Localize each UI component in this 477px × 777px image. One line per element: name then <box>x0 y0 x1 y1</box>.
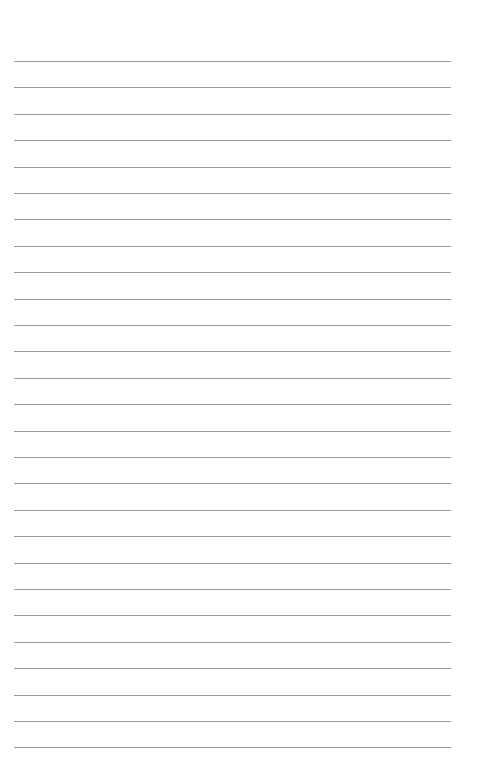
ruled-line <box>14 378 451 379</box>
ruled-line <box>14 140 451 141</box>
ruled-line <box>14 563 451 564</box>
ruled-line <box>14 404 451 405</box>
ruled-line <box>14 246 451 247</box>
ruled-line <box>14 351 451 352</box>
ruled-line <box>14 589 451 590</box>
lined-paper-page <box>0 0 477 777</box>
ruled-line <box>14 457 451 458</box>
ruled-line <box>14 193 451 194</box>
ruled-line <box>14 668 451 669</box>
ruled-line <box>14 642 451 643</box>
ruled-line <box>14 483 451 484</box>
ruled-line <box>14 61 451 62</box>
ruled-line <box>14 536 451 537</box>
ruled-line <box>14 695 451 696</box>
ruled-line <box>14 272 451 273</box>
ruled-line <box>14 299 451 300</box>
ruled-line <box>14 219 451 220</box>
ruled-line <box>14 87 451 88</box>
ruled-line <box>14 114 451 115</box>
ruled-line <box>14 721 451 722</box>
ruled-line <box>14 615 451 616</box>
ruled-line <box>14 510 451 511</box>
ruled-line <box>14 167 451 168</box>
ruled-line <box>14 325 451 326</box>
ruled-line <box>14 747 451 748</box>
ruled-line <box>14 431 451 432</box>
